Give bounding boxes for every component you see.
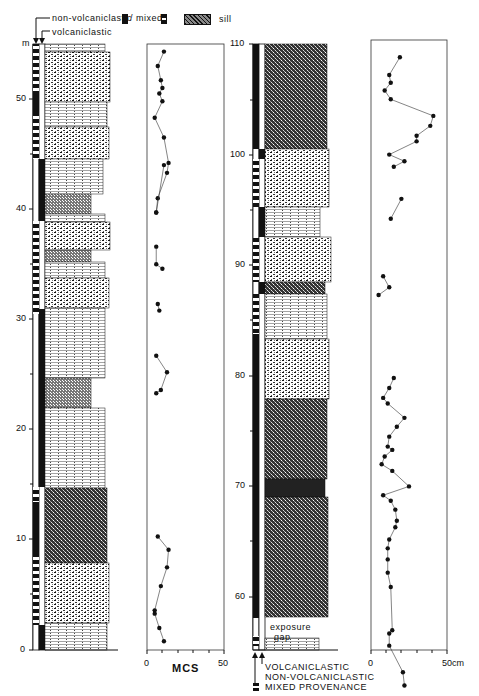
mcs-data-point: [160, 99, 164, 103]
mcs-data-point: [390, 448, 394, 452]
mcs-data-point: [402, 159, 406, 163]
mcs-data-point: [389, 585, 393, 589]
mcs-data-point: [381, 396, 385, 400]
legend-bottom-non-volcaniclastic: NON-VOLCANICLASTIC: [265, 672, 375, 682]
right-depth-label-100: 100: [230, 149, 245, 159]
mcs-line: [379, 276, 390, 295]
mcs-data-point: [160, 267, 164, 271]
right-mcs-min-label: 0: [368, 658, 373, 668]
mcs-data-point: [154, 354, 158, 358]
mcs-data-point: [154, 210, 158, 214]
mcs-data-point: [382, 88, 386, 92]
left-mcs-min-label: 0: [144, 658, 149, 668]
mcs-data-point: [389, 97, 393, 101]
mcs-data-point: [402, 416, 406, 420]
mcs-data-point: [387, 643, 391, 647]
mcs-data-point: [395, 424, 399, 428]
mcs-data-point: [162, 639, 166, 643]
mcs-data-point: [159, 78, 163, 82]
right-depth-label-60: 60: [235, 591, 245, 601]
mcs-data-point: [157, 308, 161, 312]
right-depth-label-90: 90: [235, 259, 245, 269]
mcs-data-point: [387, 73, 391, 77]
mcs-data-point: [414, 139, 418, 143]
mcs-data-point: [387, 386, 391, 390]
mcs-data-point: [387, 152, 391, 156]
mcs-data-point: [162, 135, 166, 139]
right-depth-label-70: 70: [235, 480, 245, 490]
mcs-data-point: [386, 557, 390, 561]
mcs-data-point: [393, 525, 397, 529]
mcs-data-point: [156, 196, 160, 200]
mcs-data-point: [387, 434, 391, 438]
left-depth-label-20: 20: [16, 423, 26, 433]
mcs-data-point: [389, 81, 393, 85]
legend-bottom-volcaniclastic: VOLCANICLASTIC: [265, 662, 350, 672]
mcs-data-point: [386, 570, 390, 574]
mcs-data-point: [376, 293, 380, 297]
mcs-data-point: [156, 534, 160, 538]
mcs-data-point: [387, 631, 391, 635]
left-depth-label-50: 50: [16, 93, 26, 103]
mcs-data-point: [428, 124, 432, 128]
mcs-data-point: [157, 626, 161, 630]
mcs-data-point: [165, 565, 169, 569]
mcs-data-point: [390, 469, 394, 473]
exposure-gap-label-line1: exposure: [270, 622, 311, 632]
mcs-data-point: [156, 64, 160, 68]
mcs-data-point: [390, 628, 394, 632]
left-depth-label-0: 0: [20, 644, 25, 654]
mcs-data-point: [154, 262, 158, 266]
mcs-data-point: [392, 376, 396, 380]
mcs-data-point: [381, 274, 385, 278]
left-depth-label-30: 30: [16, 313, 26, 323]
left-mcs-plot: [147, 44, 224, 654]
legend-bottom-mixed: MIXED PROVENANCE: [265, 682, 367, 692]
mcs-data-point: [407, 484, 411, 488]
mcs-data-point: [395, 518, 399, 522]
mcs-data-point: [382, 454, 386, 458]
mcs-data-point: [399, 197, 403, 201]
mcs-data-point: [387, 285, 391, 289]
mcs-data-point: [160, 86, 164, 90]
mcs-data-point: [162, 163, 166, 167]
left-depth-label-40: 40: [16, 203, 26, 213]
mcs-data-point: [386, 444, 390, 448]
mcs-data-point: [154, 244, 158, 248]
left-mcs-max-label: 50: [218, 658, 228, 668]
mcs-data-point: [159, 388, 163, 392]
mcs-line: [155, 536, 169, 641]
right-mcs-plot: [371, 40, 447, 688]
exposure-gap-label-line2: gap: [274, 632, 291, 642]
right-mcs-series: [376, 55, 435, 688]
mcs-data-point: [165, 171, 169, 175]
mcs-line: [156, 356, 167, 393]
mcs-data-point: [153, 116, 157, 120]
mcs-data-point: [166, 548, 170, 552]
mcs-data-point: [165, 370, 169, 374]
legend-bottom-mixed-swatch: [253, 683, 259, 692]
mcs-data-point: [387, 537, 391, 541]
mcs-data-point: [392, 165, 396, 169]
mcs-data-point: [414, 134, 418, 138]
mcs-data-point: [381, 493, 385, 497]
right-lithology-column: [252, 44, 338, 690]
left-mcs-axis-title: MCS: [172, 662, 199, 674]
mcs-data-point: [162, 49, 166, 53]
mcs-data-point: [431, 114, 435, 118]
left-depth-label-10: 10: [16, 533, 26, 543]
mcs-data-point: [402, 683, 406, 687]
mcs-data-point: [386, 546, 390, 550]
mcs-line: [156, 165, 164, 212]
mcs-data-point: [379, 462, 383, 466]
right-depth-label-110: 110: [230, 38, 244, 48]
left-mcs-series: [153, 49, 171, 643]
mcs-data-point: [166, 161, 170, 165]
left-provenance-bars: [33, 44, 45, 650]
mcs-data-point: [156, 302, 160, 306]
mcs-data-point: [159, 584, 163, 588]
left-lithology-column: [45, 44, 118, 650]
right-depth-label-80: 80: [235, 370, 245, 380]
mcs-data-point: [153, 611, 157, 615]
mcs-data-point: [401, 670, 405, 674]
